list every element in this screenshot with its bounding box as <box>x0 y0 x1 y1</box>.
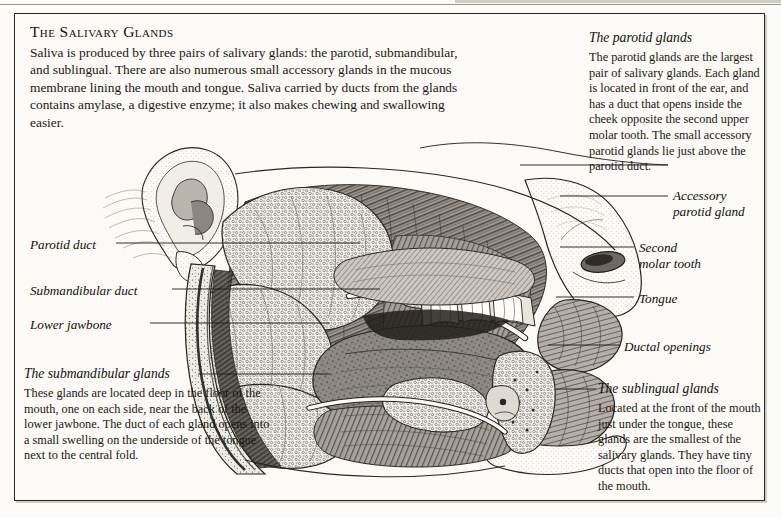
submandibular-glands-body: These glands are located deep in the flo… <box>24 386 272 464</box>
sublingual-glands-body: Located at the front of the mouth just u… <box>598 401 763 495</box>
sublingual-glands-block: The sublingual glands Located at the fro… <box>598 381 763 495</box>
page-top-rule-fragment <box>455 0 781 3</box>
callout-accessory-parotid-gland-line1: Accessory <box>673 188 745 204</box>
callout-accessory-parotid-gland: Accessory parotid gland <box>673 188 745 219</box>
callout-parotid-duct: Parotid duct <box>30 237 96 253</box>
callout-ductal-openings: Ductal openings <box>624 339 711 355</box>
parotid-glands-body: The parotid glands are the largest pair … <box>589 50 761 175</box>
intro-paragraph: Saliva is produced by three pairs of sal… <box>30 44 480 131</box>
submandibular-glands-block: The submandibular glands These glands ar… <box>24 366 272 464</box>
callout-submandibular-duct: Submandibular duct <box>30 283 137 299</box>
callout-second-molar-line1: Second <box>639 240 701 256</box>
callout-second-molar-tooth: Second molar tooth <box>639 240 701 271</box>
parotid-glands-block: The parotid glands The parotid glands ar… <box>589 30 761 175</box>
submandibular-glands-heading: The submandibular glands <box>24 366 272 382</box>
callout-accessory-parotid-gland-line2: parotid gland <box>673 204 745 220</box>
sublingual-glands-heading: The sublingual glands <box>598 381 763 397</box>
callout-tongue: Tongue <box>639 291 677 307</box>
page-title: The Salivary Glands <box>30 23 173 41</box>
callout-lower-jawbone: Lower jawbone <box>30 317 112 333</box>
upper-lip <box>538 300 622 373</box>
page-root: The Salivary Glands Saliva is produced b… <box>0 0 781 518</box>
callout-second-molar-line2: molar tooth <box>639 256 701 272</box>
parotid-glands-heading: The parotid glands <box>589 30 761 46</box>
page-top-rule <box>0 4 781 5</box>
